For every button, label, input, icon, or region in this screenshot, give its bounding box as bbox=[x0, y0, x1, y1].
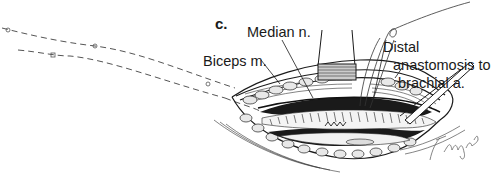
retractor bbox=[318, 30, 356, 80]
label-median-nerve: Median n. bbox=[247, 24, 311, 40]
label-distal-line2: anastomosis to bbox=[393, 57, 491, 73]
suture-markers bbox=[6, 28, 210, 86]
label-distal-line3: brachial a. bbox=[398, 75, 465, 91]
panel-letter: c. bbox=[215, 16, 228, 32]
artist-signature bbox=[430, 136, 478, 160]
label-biceps-muscle: Biceps m. bbox=[203, 53, 267, 69]
label-distal-line1: Distal bbox=[383, 39, 419, 55]
incision-dashed-lines bbox=[2, 28, 262, 112]
